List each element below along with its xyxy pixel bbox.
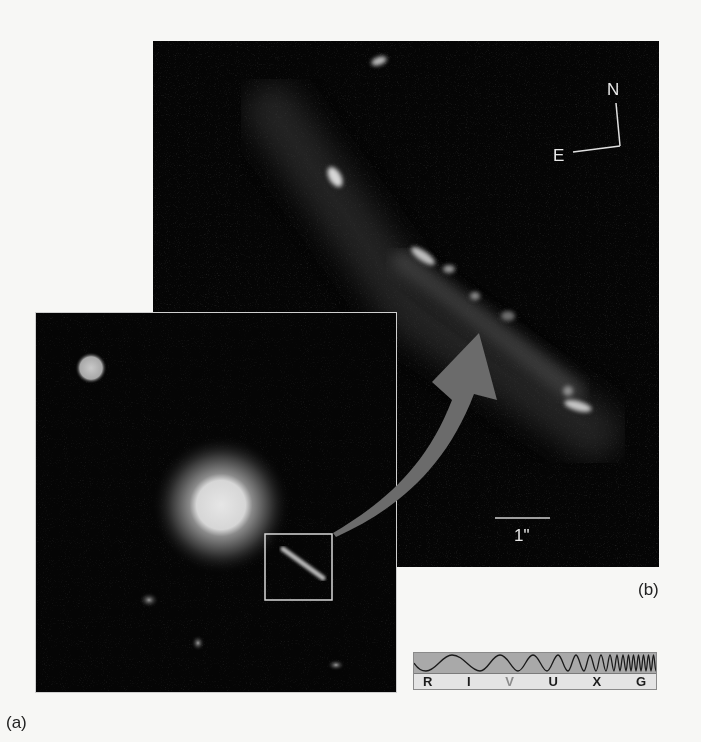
wide-field-graphic [36,313,395,691]
compass-north-label: N [607,80,619,99]
wavelength-wave-icon [414,653,656,674]
panel-b-label: (b) [638,580,659,600]
compass-east-label: E [553,146,564,165]
spectrum-band-indicator: R I V U X G [413,652,657,690]
panel-a-label: (a) [6,713,27,733]
band-x: X [593,674,602,689]
band-g: G [636,674,646,689]
band-r: R [423,674,432,689]
band-u: U [549,674,558,689]
band-v-active: V [505,674,514,689]
wide-field-image [35,312,397,693]
spectrum-band-labels: R I V U X G [414,674,656,689]
scale-bar-label: 1" [514,526,530,545]
band-i: I [467,674,471,689]
